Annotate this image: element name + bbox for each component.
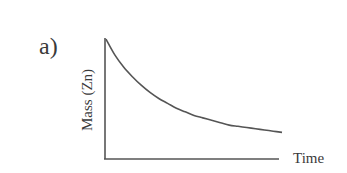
chart: a) Mass (Zn) Time bbox=[0, 0, 347, 173]
y-axis-label: Mass (Zn) bbox=[79, 69, 96, 131]
x-axis-label: Time bbox=[293, 150, 324, 166]
series-layer bbox=[106, 39, 282, 132]
series-line-0 bbox=[106, 39, 282, 132]
panel-label: a) bbox=[39, 33, 58, 59]
